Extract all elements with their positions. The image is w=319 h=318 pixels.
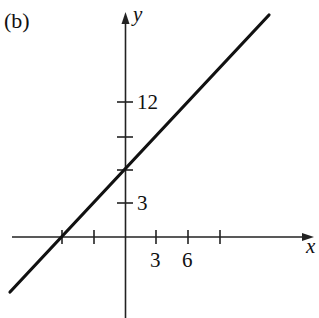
x-tick-label-6: 6 — [182, 250, 193, 271]
y-axis-arrow-icon — [122, 12, 130, 24]
y-tick-label-3: 3 — [137, 193, 148, 214]
x-tick-label-3: 3 — [150, 250, 161, 271]
data-line — [10, 15, 269, 292]
y-tick-label-12: 12 — [137, 92, 158, 113]
y-axis-label: y — [133, 4, 142, 25]
panel-label: (b) — [4, 10, 30, 32]
x-axis-label: x — [306, 236, 315, 257]
